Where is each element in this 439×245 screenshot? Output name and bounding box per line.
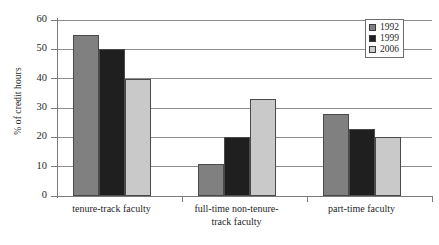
y-axis-tick-label-wrap: 30 bbox=[19, 102, 47, 114]
bar bbox=[250, 99, 276, 196]
bar bbox=[73, 35, 99, 196]
y-axis-tick-label: 40 bbox=[21, 73, 47, 84]
x-axis-label-line: tenure-track faculty bbox=[42, 203, 182, 216]
y-axis-tick-label: 50 bbox=[21, 43, 47, 54]
y-axis-tick-label: 10 bbox=[21, 161, 47, 172]
x-axis-tick-mark bbox=[432, 196, 433, 202]
legend-item: 2006 bbox=[369, 44, 399, 55]
legend-item-label: 2006 bbox=[380, 44, 399, 55]
y-axis-tick-label: 20 bbox=[21, 131, 47, 142]
legend-swatch-icon bbox=[369, 24, 376, 31]
y-axis-tick-label-wrap: 50 bbox=[19, 43, 47, 55]
legend-item: 1999 bbox=[369, 33, 399, 44]
bar bbox=[125, 79, 151, 196]
legend: 1992 1999 2006 bbox=[365, 19, 404, 58]
legend-item-label: 1992 bbox=[380, 22, 399, 33]
y-axis-tick-label-wrap: 60 bbox=[19, 14, 47, 26]
x-axis-label-line: track faculty bbox=[167, 216, 307, 229]
legend-item: 1992 bbox=[369, 22, 399, 33]
x-axis-category-label: tenure-track faculty bbox=[42, 203, 182, 216]
x-axis-tick-mark bbox=[182, 196, 183, 202]
y-axis-tick-label: 0 bbox=[21, 190, 47, 201]
bar bbox=[349, 129, 375, 196]
x-axis-tick-mark bbox=[307, 196, 308, 202]
bar bbox=[198, 164, 224, 196]
legend-swatch-icon bbox=[369, 35, 376, 42]
bar bbox=[99, 49, 125, 196]
y-axis-tick-label-wrap: 20 bbox=[19, 131, 47, 143]
x-axis-label-line: full-time non-tenure- bbox=[167, 203, 307, 216]
x-axis-category-label: full-time non-tenure-track faculty bbox=[167, 203, 307, 228]
bar bbox=[224, 137, 250, 196]
y-axis-tick-label: 30 bbox=[21, 102, 47, 113]
x-axis-label-line: part-time faculty bbox=[292, 203, 432, 216]
y-axis-tick-label: 60 bbox=[21, 14, 47, 25]
y-axis-tick-label-wrap: 40 bbox=[19, 73, 47, 85]
legend-item-label: 1999 bbox=[380, 33, 399, 44]
y-axis-tick-label-wrap: 10 bbox=[19, 161, 47, 173]
legend-swatch-icon bbox=[369, 46, 376, 53]
bar-chart: % of credit hours 0102030405060 tenure-t… bbox=[0, 0, 439, 245]
bar bbox=[375, 137, 401, 196]
y-axis-tick-label-wrap: 0 bbox=[19, 190, 47, 202]
x-axis-category-label: part-time faculty bbox=[292, 203, 432, 216]
x-axis-line bbox=[51, 196, 432, 197]
bar bbox=[323, 114, 349, 196]
